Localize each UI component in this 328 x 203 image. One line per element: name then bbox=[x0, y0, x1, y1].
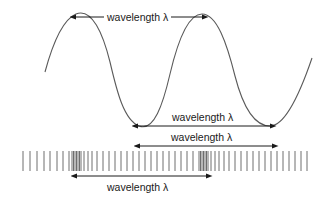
sine-wave-path bbox=[45, 13, 312, 127]
wavelength-label-third: wavelength λ bbox=[168, 131, 235, 143]
wavelength-label-second: wavelength λ bbox=[169, 111, 236, 123]
sine-wave-group bbox=[45, 13, 312, 127]
spectral-line-barcode bbox=[23, 151, 307, 171]
diagram-canvas bbox=[0, 0, 328, 203]
wavelength-label-top: wavelength λ bbox=[104, 11, 171, 23]
wavelength-diagram: wavelength λ wavelength λ wavelength λ w… bbox=[0, 0, 328, 203]
wavelength-label-bottom: wavelength λ bbox=[104, 181, 171, 193]
